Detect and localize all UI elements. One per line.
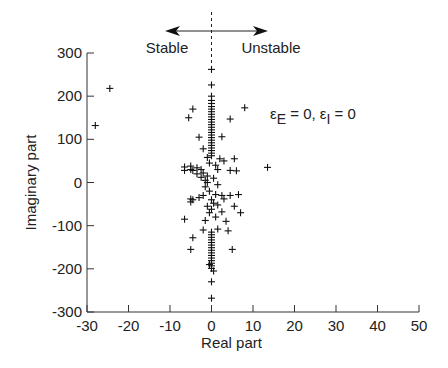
y-tick-label: 200 xyxy=(57,87,82,104)
data-point xyxy=(106,85,113,92)
annotations: Stable Unstable εE = 0, εI = 0 xyxy=(146,12,356,127)
data-point xyxy=(200,226,207,233)
data-point xyxy=(206,188,213,195)
data-point xyxy=(227,167,234,174)
data-points xyxy=(92,66,271,302)
x-tick-label: 0 xyxy=(207,317,215,334)
x-tick-label: 50 xyxy=(411,317,428,334)
data-point xyxy=(227,192,234,199)
data-point xyxy=(233,167,240,174)
condition-sub-e: E xyxy=(277,111,286,127)
data-point xyxy=(227,116,234,123)
data-point xyxy=(181,167,188,174)
x-tick-label: 10 xyxy=(245,317,262,334)
y-tick-label: 0 xyxy=(74,174,82,191)
data-point xyxy=(212,214,219,221)
data-point xyxy=(210,175,217,182)
y-axis-label: Imaginary part xyxy=(22,134,39,231)
data-point xyxy=(223,218,230,225)
x-tick-label: -10 xyxy=(159,317,181,334)
data-point xyxy=(264,164,271,171)
y-tick-label: 100 xyxy=(57,130,82,147)
data-point xyxy=(218,208,225,215)
data-point xyxy=(181,216,188,223)
data-point xyxy=(187,246,194,253)
data-point xyxy=(208,278,215,285)
data-point xyxy=(189,234,196,241)
y-tick-label: -300 xyxy=(52,303,82,320)
data-point xyxy=(212,191,219,198)
data-point xyxy=(200,145,207,152)
data-point xyxy=(208,295,215,302)
scatter-chart: -30-20-1001020304050-300-200-10001002003… xyxy=(0,0,448,368)
condition-end: = 0 xyxy=(330,105,355,122)
data-point xyxy=(214,181,221,188)
data-point xyxy=(214,201,221,208)
data-point xyxy=(185,114,192,121)
data-point xyxy=(193,170,200,177)
condition-mid: = 0, ε xyxy=(286,105,327,122)
data-point xyxy=(229,246,236,253)
x-tick-label: 40 xyxy=(369,317,386,334)
data-point xyxy=(92,122,99,129)
data-point xyxy=(204,203,211,210)
x-tick-label: 20 xyxy=(286,317,303,334)
x-tick-label: 30 xyxy=(328,317,345,334)
data-point xyxy=(214,226,221,233)
data-point xyxy=(225,227,232,234)
axes: -30-20-1001020304050-300-200-10001002003… xyxy=(52,44,427,334)
unstable-label: Unstable xyxy=(241,39,300,56)
data-point xyxy=(189,106,196,113)
x-axis-label: Real part xyxy=(201,334,263,351)
stable-label: Stable xyxy=(146,39,189,56)
data-point xyxy=(202,217,209,224)
y-tick-label: -200 xyxy=(52,260,82,277)
data-point xyxy=(208,66,215,73)
data-point xyxy=(196,134,203,141)
data-point xyxy=(218,133,225,140)
x-tick-label: -20 xyxy=(118,317,140,334)
y-tick-label: -100 xyxy=(52,217,82,234)
data-point xyxy=(231,203,238,210)
y-tick-label: 300 xyxy=(57,44,82,61)
data-point xyxy=(235,191,242,198)
data-point xyxy=(241,104,248,111)
data-point xyxy=(237,209,244,216)
condition-label: εE = 0, εI = 0 xyxy=(270,105,356,127)
data-point xyxy=(208,81,215,88)
data-point xyxy=(231,155,238,162)
